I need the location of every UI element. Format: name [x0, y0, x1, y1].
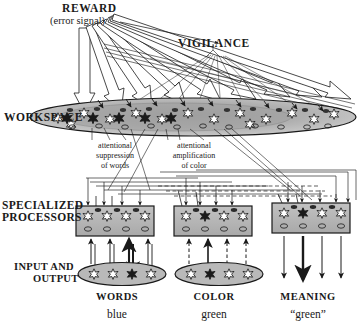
words-processor-box [76, 206, 154, 236]
specialized-processors-label-line2: PROCESSORS [2, 211, 82, 223]
column-name-color: COLOR [174, 291, 254, 302]
words-bottomup-arrows [91, 239, 148, 264]
meaning-processor-box [272, 203, 350, 233]
column-value-meaning: “green” [268, 308, 348, 320]
workspace-processor-bus [86, 170, 356, 200]
workspace-label: WORKSPACE [4, 111, 83, 123]
input-output-label-line1: INPUT AND [14, 261, 74, 272]
figure-canvas: REWARD (error signal) VIGILANCE WORKSPAC… [0, 0, 363, 329]
column-name-words: WORDS [77, 291, 157, 302]
color-bottomup-arrows [189, 239, 246, 264]
column-name-meaning: MEANING [268, 291, 348, 302]
reward-sublabel: (error signal) [50, 15, 105, 26]
column-value-color: green [174, 308, 254, 320]
color-io-ellipse [175, 263, 263, 286]
attentional-suppression-note: attentional suppression of words [84, 141, 146, 172]
input-output-label-line2: OUTPUT [33, 273, 79, 284]
words-io-ellipse [78, 263, 166, 286]
reward-label: REWARD [62, 2, 117, 14]
attentional-amplification-note: attentional amplification of color [163, 141, 225, 172]
meaning-output-arrows [284, 236, 341, 280]
color-processor-box [174, 206, 252, 236]
vigilance-label: VIGILANCE [178, 37, 250, 49]
specialized-processors-label-line1: SPECIALIZED [2, 199, 83, 211]
column-value-words: blue [77, 308, 157, 320]
processor-to-workspace-arrows [96, 190, 298, 206]
